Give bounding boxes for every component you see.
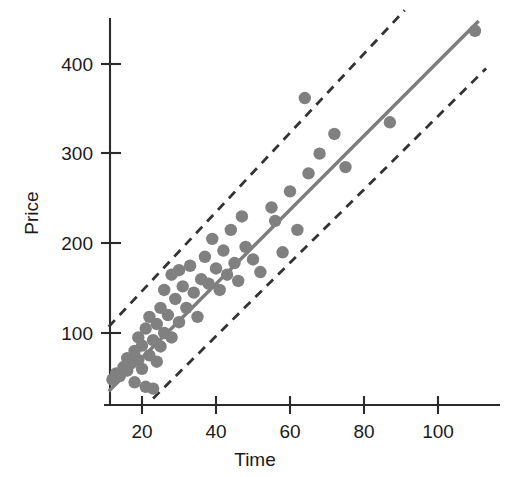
y-axis-title: Price	[21, 191, 42, 234]
data-point	[154, 340, 166, 352]
data-point	[199, 251, 211, 263]
data-point	[128, 376, 140, 388]
data-point	[384, 116, 396, 128]
data-point	[158, 284, 170, 296]
data-point	[136, 339, 148, 351]
y-tick-label-300: 300	[61, 143, 93, 164]
data-point	[284, 185, 296, 197]
data-point	[236, 210, 248, 222]
y-tick-label-400: 400	[61, 54, 93, 75]
x-axis-title: Time	[234, 449, 276, 470]
upper-band	[109, 10, 405, 327]
data-point	[202, 277, 214, 289]
data-point	[228, 257, 240, 269]
data-point	[276, 246, 288, 258]
data-point	[136, 363, 148, 375]
data-point	[313, 147, 325, 159]
data-point	[210, 262, 222, 274]
data-point	[191, 311, 203, 323]
data-point	[225, 224, 237, 236]
scatter-plot-figure: 400 300 200 100 20 40 60 80 100 Time Pri…	[0, 0, 507, 477]
data-point	[173, 264, 185, 276]
y-tick-label-200: 200	[61, 233, 93, 254]
data-point	[265, 201, 277, 213]
data-point	[184, 260, 196, 272]
data-point	[188, 286, 200, 298]
data-point	[232, 275, 244, 287]
plot-canvas: 400 300 200 100 20 40 60 80 100 Time Pri…	[0, 0, 507, 477]
x-tick-label-60: 60	[279, 421, 300, 442]
data-point	[328, 128, 340, 140]
data-point	[302, 167, 314, 179]
data-point	[140, 322, 152, 334]
data-point	[217, 244, 229, 256]
data-point	[299, 92, 311, 104]
lower-band	[153, 68, 486, 398]
data-point	[180, 302, 192, 314]
data-point	[162, 309, 174, 321]
data-point	[165, 331, 177, 343]
x-tick-label-20: 20	[131, 421, 152, 442]
data-point	[247, 253, 259, 265]
data-point	[269, 215, 281, 227]
x-tick-label-80: 80	[353, 421, 374, 442]
data-point	[339, 161, 351, 173]
data-point	[469, 25, 481, 37]
data-point	[221, 269, 233, 281]
data-point	[173, 316, 185, 328]
data-point	[177, 280, 189, 292]
x-tick-label-40: 40	[205, 421, 226, 442]
y-tick-label-100: 100	[61, 323, 93, 344]
data-point	[254, 266, 266, 278]
series-layer	[109, 10, 486, 398]
data-point	[291, 224, 303, 236]
data-point	[239, 241, 251, 253]
data-point	[169, 293, 181, 305]
data-point	[214, 284, 226, 296]
data-point	[147, 382, 159, 394]
x-tick-label-100: 100	[422, 421, 454, 442]
data-point	[151, 355, 163, 367]
data-point	[206, 233, 218, 245]
